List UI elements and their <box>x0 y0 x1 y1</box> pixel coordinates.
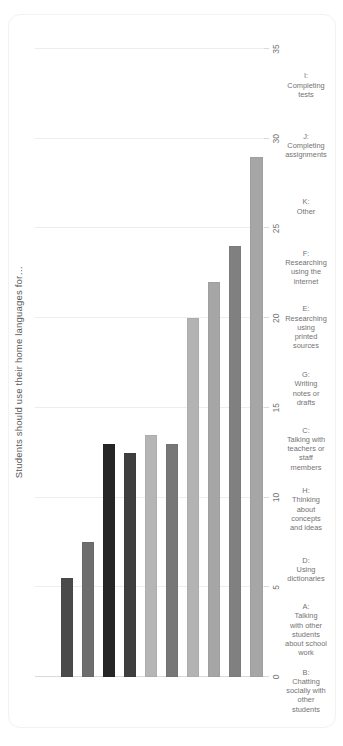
rotated-chart-stage: Students should use their home languages… <box>9 15 343 729</box>
axis-tick-label: 25 <box>271 224 281 233</box>
chart-page: Students should use their home languages… <box>0 0 343 746</box>
bar[interactable] <box>187 318 199 677</box>
axis-tick-label: 5 <box>271 585 281 590</box>
bar-row <box>208 49 220 677</box>
bar[interactable] <box>61 578 73 677</box>
tick-mark <box>264 407 269 408</box>
axis-tick-label: 15 <box>271 403 281 412</box>
bar[interactable] <box>124 453 136 677</box>
tick-mark <box>264 317 269 318</box>
bar-row <box>61 49 73 677</box>
bar-row <box>124 49 136 677</box>
bar-row <box>166 49 178 677</box>
bar[interactable] <box>103 444 115 677</box>
bar[interactable] <box>166 444 178 677</box>
bar[interactable] <box>250 157 262 677</box>
bar-series <box>35 49 267 677</box>
bar[interactable] <box>229 246 241 677</box>
axis-tick-label: 20 <box>271 313 281 322</box>
bar[interactable] <box>82 542 94 677</box>
bar-row <box>229 49 241 677</box>
tick-mark <box>264 227 269 228</box>
bar-row <box>82 49 94 677</box>
chart-title: Students should use their home languages… <box>13 15 24 729</box>
plot-area <box>35 49 267 677</box>
tick-mark <box>264 48 269 49</box>
bar[interactable] <box>208 282 220 677</box>
chart-card: Students should use their home languages… <box>8 14 336 728</box>
axis-tick-label: 30 <box>271 134 281 143</box>
x-axis-ticks: 05101520253035 <box>269 49 291 677</box>
axis-tick-label: 0 <box>271 675 281 680</box>
bar-row <box>145 49 157 677</box>
bar-row <box>250 49 262 677</box>
axis-tick-label: 35 <box>271 44 281 53</box>
bar[interactable] <box>145 435 157 677</box>
bar-row <box>103 49 115 677</box>
y-axis-categories <box>35 677 267 729</box>
bar-row <box>187 49 199 677</box>
axis-tick-label: 10 <box>271 493 281 502</box>
tick-mark <box>264 138 269 139</box>
tick-mark <box>264 586 269 587</box>
tick-mark <box>264 497 269 498</box>
